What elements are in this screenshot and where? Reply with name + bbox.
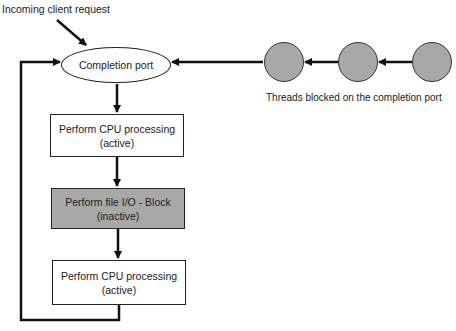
step-line1: Perform CPU processing <box>61 269 177 283</box>
thread-2 <box>338 42 378 82</box>
step-line2: (active) <box>100 136 134 150</box>
thread-3 <box>412 42 452 82</box>
step-line2: (inactive) <box>97 209 140 223</box>
step-file-io-block: Perform file I/O - Block (inactive) <box>51 188 185 229</box>
step-cpu-processing-1: Perform CPU processing (active) <box>50 114 184 157</box>
step-line1: Perform file I/O - Block <box>65 195 171 209</box>
step-line1: Perform CPU processing <box>59 122 175 136</box>
step-line2: (active) <box>102 283 136 297</box>
incoming-request-label: Incoming client request <box>2 3 110 15</box>
thread-1 <box>264 42 304 82</box>
completion-port-label: Completion port <box>79 59 153 71</box>
step-cpu-processing-2: Perform CPU processing (active) <box>52 260 186 305</box>
incoming-arrow <box>57 20 86 45</box>
completion-port: Completion port <box>61 47 171 83</box>
threads-label: Threads blocked on the completion port <box>266 92 442 103</box>
